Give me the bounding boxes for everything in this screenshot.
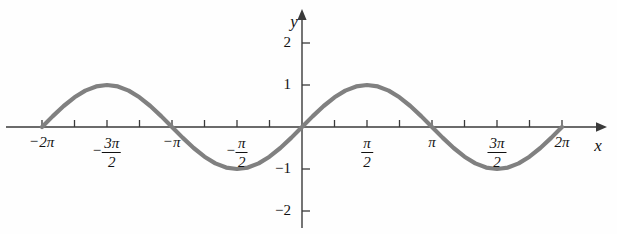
y-axis-arrowhead	[297, 9, 306, 20]
x-axis-arrowhead	[596, 122, 607, 132]
sine-curve-figure: −2π−3π2−π−π2π2π3π22π 21−1−2 y x	[0, 0, 617, 234]
axes-group	[6, 9, 607, 228]
plot-canvas	[0, 0, 617, 234]
